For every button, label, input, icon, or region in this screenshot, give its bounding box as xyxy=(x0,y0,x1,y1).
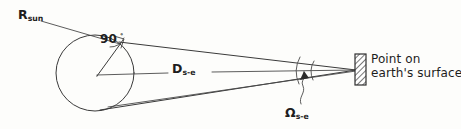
upper-tangent-line xyxy=(119,42,356,70)
label-d-sun-earth-base: D xyxy=(172,61,182,76)
label-point-on-earth-line1: Point on xyxy=(371,52,420,66)
lower-tangent-line-echo xyxy=(108,71,356,107)
sun-earth-solid-angle-figure: Rsun 90° Ds-e Ωs-e Point onearth's surfa… xyxy=(0,0,461,129)
sun-radius-line xyxy=(97,43,121,76)
label-angle-90-value: 90 xyxy=(100,32,117,46)
label-d-sun-earth: Ds-e xyxy=(172,62,196,76)
center-axis-left-segment xyxy=(97,73,168,75)
label-r-sun-subscript: sun xyxy=(28,14,44,23)
label-point-on-earth-line2: earth's surface xyxy=(371,67,461,81)
label-omega-sun-earth: Ωs-e xyxy=(285,106,309,120)
label-r-sun-base: R xyxy=(18,7,28,22)
omega-arrowhead-icon xyxy=(300,71,309,80)
center-axis-right-segment xyxy=(212,70,356,72)
label-d-sun-earth-subscript: s-e xyxy=(182,68,195,77)
earth-surface-hatched-rect-icon xyxy=(355,54,366,85)
degree-symbol-icon: ° xyxy=(120,32,123,40)
label-point-on-earth-surface: Point onearth's surface xyxy=(371,53,461,81)
label-r-sun: Rsun xyxy=(18,8,43,22)
label-omega-base: Ω xyxy=(285,105,296,120)
label-omega-subscript: s-e xyxy=(296,112,309,121)
label-angle-90: 90° xyxy=(100,33,123,47)
